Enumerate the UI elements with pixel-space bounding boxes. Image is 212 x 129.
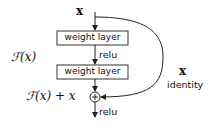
relu-label-2: relu — [99, 106, 117, 117]
weight-layer-label-2: weight layer — [57, 66, 128, 76]
relu-label-1: relu — [99, 49, 117, 60]
shortcut-type-label: identity — [167, 79, 203, 90]
sum-node-icon — [90, 92, 100, 102]
input-label: x — [76, 4, 83, 18]
sum-label: ℱ(x) + x — [26, 89, 76, 103]
weight-layer-label-1: weight layer — [57, 32, 128, 42]
shortcut-value-label: x — [179, 64, 186, 78]
residual-function-label: ℱ(x) — [11, 50, 36, 64]
